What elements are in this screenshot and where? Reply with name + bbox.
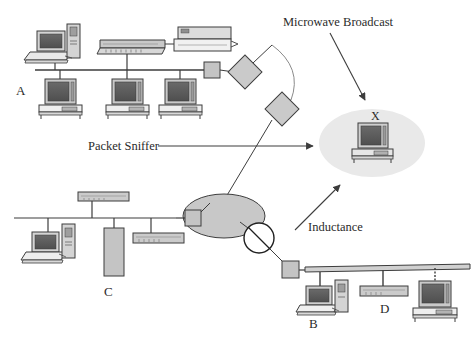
annotation-packet-sniffer: Packet Sniffer [88,140,159,153]
segment-bd-bus [305,264,470,272]
segment-d-desktop[interactable] [413,268,457,322]
label-segment-c: C [104,285,113,298]
microwave-broadcast-arrow [330,33,365,100]
network-diagram [0,0,473,341]
segment-bd-transceiver-tap[interactable] [282,261,308,278]
label-segment-b: B [309,317,318,330]
segment-c-hub-bottom[interactable] [133,218,184,243]
host-x-computer[interactable] [352,123,393,163]
segment-a-printer[interactable] [165,27,238,51]
segment-b-laptop[interactable] [296,272,338,315]
segment-a-laptop[interactable] [24,31,72,70]
segment-a-tower[interactable] [65,24,80,58]
segment-a-desktop-2[interactable] [106,70,149,119]
label-segment-d: D [380,302,389,315]
segment-c-transceiver-tap[interactable] [185,210,201,226]
label-segment-a: A [16,84,25,97]
annotation-microwave-broadcast: Microwave Broadcast [283,16,393,29]
segment-a-desktop-3[interactable] [159,70,202,119]
annotation-inductance: Inductance [308,221,363,234]
relay-lower-diamond[interactable] [265,92,299,126]
segment-c-laptop[interactable] [21,218,66,263]
segment-c-server-rack[interactable] [104,218,124,276]
relay-upper-diamond[interactable] [228,55,262,89]
segment-c-hub-top[interactable] [78,192,129,218]
segment-d-hub[interactable] [360,270,408,296]
label-host-x: X [371,110,380,122]
segment-a-transceiver-tap[interactable] [204,62,220,78]
segment-a-hub[interactable] [97,40,165,70]
segment-a-desktop-1[interactable] [39,70,82,119]
diagram-canvas: Microwave Broadcast Packet Sniffer Induc… [0,0,473,341]
